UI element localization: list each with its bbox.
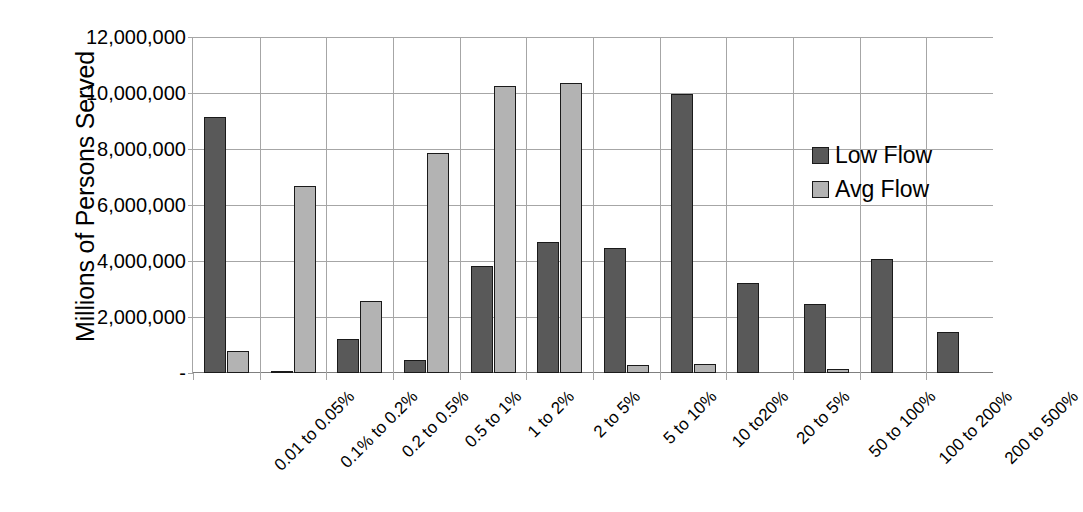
bar-low-flow [604, 248, 626, 373]
y-axis-tick [188, 205, 193, 206]
x-axis-tick-label: 5 to 10% [660, 387, 722, 449]
x-axis-tick-label: 50 to 100% [865, 387, 940, 462]
y-axis-tick [188, 37, 193, 38]
y-axis-tick-label: 6,000,000 [97, 194, 186, 217]
bar-low-flow [337, 339, 359, 373]
chart-legend: Low FlowAvg Flow [812, 138, 932, 206]
gridline-vertical [660, 37, 661, 373]
gridline-vertical [326, 37, 327, 373]
bar-low-flow [737, 283, 759, 373]
gridline-vertical [393, 37, 394, 373]
x-axis-tick-label: 1 to 2% [524, 387, 579, 442]
bar-low-flow [937, 332, 959, 373]
bar-avg-flow [360, 301, 382, 373]
y-axis-tick-label: 12,000,000 [86, 26, 186, 49]
bar-avg-flow [494, 86, 516, 373]
gridline-vertical [526, 37, 527, 373]
y-axis-tick [188, 261, 193, 262]
bar-low-flow [871, 259, 893, 373]
bar-avg-flow [427, 153, 449, 373]
y-axis-tick [188, 93, 193, 94]
legend-item-low-flow[interactable]: Low Flow [812, 138, 932, 172]
x-axis-tick-label: 0.5 to 1% [461, 387, 526, 452]
gridline-vertical [593, 37, 594, 373]
y-axis-tick [188, 149, 193, 150]
gridline-vertical [726, 37, 727, 373]
bar-low-flow [804, 304, 826, 373]
bar-avg-flow [694, 364, 716, 373]
y-axis-tick-label: 10,000,000 [86, 82, 186, 105]
legend-label: Avg Flow [835, 176, 929, 203]
bar-low-flow [204, 117, 226, 373]
y-axis-tick-label: 4,000,000 [97, 250, 186, 273]
y-axis-tick-label: - [179, 362, 186, 385]
gridline-vertical [793, 37, 794, 373]
bar-avg-flow [227, 351, 249, 373]
bar-avg-flow [627, 365, 649, 373]
gridline-vertical [260, 37, 261, 373]
x-axis-tick-label: 20 to 5% [793, 387, 855, 449]
x-axis-tick-label: 2 to 5% [590, 387, 645, 442]
legend-swatch-icon [812, 147, 829, 164]
bar-low-flow [471, 266, 493, 373]
bar-avg-flow [294, 186, 316, 373]
bar-low-flow [671, 94, 693, 373]
bar-low-flow [537, 242, 559, 373]
gridline-vertical [460, 37, 461, 373]
legend-label: Low Flow [835, 142, 932, 169]
x-axis-tick-labels: 0.01 to 0.05%0.1% to 0.2%0.2 to 0.5%0.5 … [192, 373, 992, 512]
y-axis-tick [188, 317, 193, 318]
y-axis-tick-label: 2,000,000 [97, 306, 186, 329]
bar-avg-flow [560, 83, 582, 373]
y-axis-tick-labels: -2,000,0004,000,0006,000,0008,000,00010,… [8, 0, 186, 512]
y-axis-tick-label: 8,000,000 [97, 138, 186, 161]
legend-swatch-icon [812, 181, 829, 198]
x-axis-tick-label: 10 to20% [728, 387, 793, 452]
bar-low-flow [404, 360, 426, 373]
legend-item-avg-flow[interactable]: Avg Flow [812, 172, 932, 206]
